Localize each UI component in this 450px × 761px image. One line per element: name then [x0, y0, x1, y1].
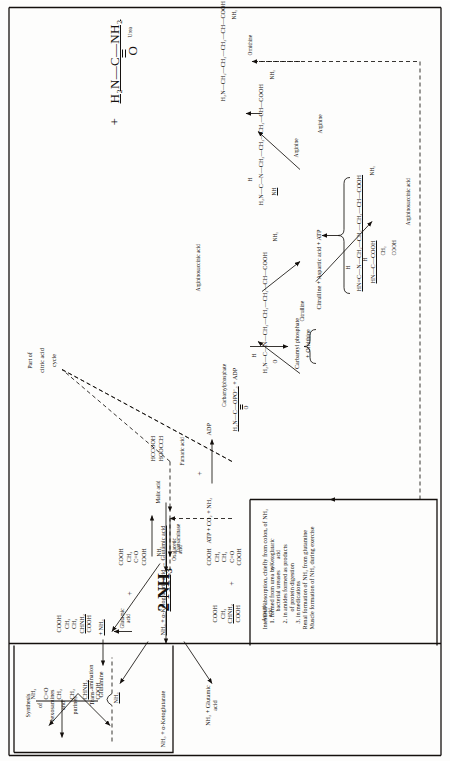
argininosuccinic-nh2: NH₂: [370, 165, 376, 175]
argininosuccinic-top-label: Argininosuccinic acid: [196, 244, 202, 291]
ornithine-structure: H₂N—CH₂—CH₂—CH₂—CH—COOH: [220, 1, 227, 101]
argininosuccinic-line-1: HN—C—COOH: [370, 240, 377, 283]
arginine-nh2: NH₂: [270, 69, 276, 79]
nh3-branch-up: NH₃: [113, 692, 120, 703]
plus-sign-1: +: [228, 581, 236, 585]
argininosuccinic-label: Argininosuccinic acid: [406, 178, 412, 225]
atp-co2-nh3-label: ATP + CO₂ + NH₃: [206, 497, 213, 543]
citrulline-reaction: Citrulline + Aspartic acid + ATP: [316, 229, 323, 309]
plus-sign-2: +: [126, 591, 134, 595]
synthesis-l1: Synthesis: [22, 657, 34, 753]
carbamylphosphate-plus-adp: + ADP: [231, 367, 238, 384]
urea-plus: +: [108, 118, 122, 125]
ketoglutaric-label: α-Ketoglutaric acid: [270, 523, 282, 585]
glutamic-atom-2: CH₂: [71, 614, 79, 633]
citrulline-nh2: NH₂: [273, 231, 279, 241]
glutamic-atom-1: CH₂: [64, 614, 72, 633]
fumaric-l1: HCCOOH: [150, 435, 158, 461]
urea-label: Urea: [128, 27, 134, 37]
ketoglutaric-atom-2: CH₂: [221, 548, 229, 565]
aspartic-label: Aspartic acid: [262, 589, 274, 635]
carbamyl-dblbond-b: [242, 404, 243, 409]
glutamic-atom-0: COOH: [56, 614, 64, 633]
citric-cycle-l1: Part of: [24, 325, 36, 395]
glutamic-atom-3: CHNH₂: [79, 614, 87, 633]
glutamine-atom-1: C=O: [43, 687, 49, 699]
transamination-label-l2: amination: [88, 664, 95, 689]
glutamine-atom-0: NH₂: [30, 688, 36, 699]
fumaric-l2: HOOCCH: [158, 435, 166, 461]
ketoglutaric-label-l2: acid: [276, 523, 282, 585]
citrulline-h: H: [252, 353, 258, 357]
glutamine-label: Glutamine: [98, 671, 105, 697]
arginine-label: Arginine: [294, 138, 300, 157]
ketoglutaric-atom-1: CH₂: [214, 548, 222, 565]
glutamine-atom-2: CH₂: [56, 688, 62, 699]
glutamic-label: Glutamic acid: [120, 595, 132, 641]
citric-cycle-label: Part of citric acid cycle: [24, 325, 59, 395]
aspartic-structure: COOH CH₂ CHNH₂ COOH: [212, 604, 242, 623]
synthesis-l3: hexosamines: [46, 657, 58, 753]
glutamic-atom-4: COOH: [86, 614, 94, 633]
argininosuccinic-cooh: COOH: [392, 240, 398, 255]
oxalacetic-atom-1: CH₂: [126, 548, 134, 565]
synthesis-l5: purines: [69, 657, 81, 753]
carbamyl-dblbond-a: [240, 404, 241, 409]
transamination-reaction: NH₃ + α-Ketoglutaric acid → Glutamic aci…: [160, 525, 167, 635]
glutamic-structure: COOH CH₂ CH₂ CHNH₂ COOH: [56, 614, 94, 633]
aspartic-atom-3: COOH: [235, 604, 243, 623]
carbamylphosphate-o: O: [244, 405, 250, 409]
oxalacetic-structure: COOH CH₂ C=O COOH: [118, 548, 148, 565]
arginine-nh: NH: [272, 187, 278, 195]
ketoglutaric-atom-3: C=O: [229, 548, 237, 565]
ornithine-label: Ornithine: [248, 34, 254, 55]
citrulline-structure: H₂N—C—N—CH₂—CH₂—CH₂—CH—COOH: [262, 252, 269, 373]
urea-formula: H₂N—C—NH₂: [108, 19, 122, 103]
carbamylphosphate-main: H₂N—C—OPO⁻₃: [231, 386, 238, 431]
citrulline-o: O: [273, 359, 279, 363]
reaction-nh3-glutamic-l2: acid: [212, 663, 219, 747]
source-line-8: Muscle formation of NH₃ during exercise: [309, 505, 316, 629]
ketoglutaric-structure: COOH CH₂ CH₂ C=O COOH: [206, 548, 244, 565]
fumaric-structure: HCCOOH HOOCCH: [150, 435, 165, 461]
oxalacetic-atom-3: COOH: [141, 548, 149, 565]
ketoglutaric-atom-0: COOH: [206, 548, 214, 565]
fumaric-acid-label: Fumaric acid: [180, 437, 186, 465]
aspartic-atom-0: COOH: [212, 604, 220, 623]
aspartic-label-l2: acid: [268, 589, 274, 635]
oxalacetic-atom-2: C=O: [133, 548, 141, 565]
ornithine-nh2: NH₂: [232, 9, 238, 19]
arginine-label-2: Arginine: [318, 114, 324, 133]
glutamic-label-l2: acid: [126, 595, 132, 641]
oxalacetic-label-l2: acid: [178, 525, 184, 573]
arginine-structure: H₂N—C—N—CH₂—CH₂—CH₂—CH—COOH: [258, 84, 265, 205]
ketoglutaric-atom-4: COOH: [236, 548, 244, 565]
transamination-reaction-text: NH₃ + α-Ketoglutaric acid → Glutamic aci…: [159, 525, 166, 635]
citrulline-label: Citrulline: [300, 300, 306, 321]
argininosuccinic-line-0: HN=C—N—CH₂—CH₂—CH₂—CH—COOH: [355, 174, 362, 291]
ornithine-chain: H₂N—CH₂—CH₂—CH₂—CH—COOH: [219, 1, 226, 101]
arginine-h: H: [248, 177, 254, 181]
aspartic-atom-2: CHNH₂: [227, 604, 235, 623]
argininosuccinic-structure: HN=C—N—CH₂—CH₂—CH₂—CH—COOH: [356, 174, 363, 291]
argininosuccinic-ch2: CH₂: [381, 246, 387, 255]
citric-cycle-l3: cycle: [48, 325, 60, 395]
oxalacetic-label: Oxalacetic acid: [172, 525, 184, 573]
urea-o: O: [126, 46, 140, 55]
argininosuccinic-h2: H: [363, 257, 369, 261]
argininosuccinic-h1: H: [346, 265, 352, 269]
plus-nh3-label: + NH₃: [98, 619, 105, 635]
aspartic-atom-1: CH₂: [220, 604, 228, 623]
glutamine-atom-3: CH₂: [69, 688, 75, 699]
malic-acid-label: Malic acid: [156, 480, 162, 503]
urea-dblbond-a: [122, 49, 123, 57]
reaction-nh3-ketoglutarate: NH₃ + α-Ketoglutarate: [160, 690, 167, 747]
urea-dblbond-b: [125, 49, 126, 57]
adp-label: ADP: [206, 423, 213, 435]
carbamylphosphate-structure: H₂N—C—OPO⁻₃ + ADP: [232, 367, 239, 431]
carbamylphosphate-title: Carbamylphosphate: [222, 339, 228, 431]
plus-sign-3: +: [196, 471, 204, 475]
synthesis-label: Synthesis of hexosamines and purines: [22, 657, 81, 753]
citric-cycle-l2: citric acid: [36, 325, 48, 395]
oxalacetic-atom-0: COOH: [118, 548, 126, 565]
